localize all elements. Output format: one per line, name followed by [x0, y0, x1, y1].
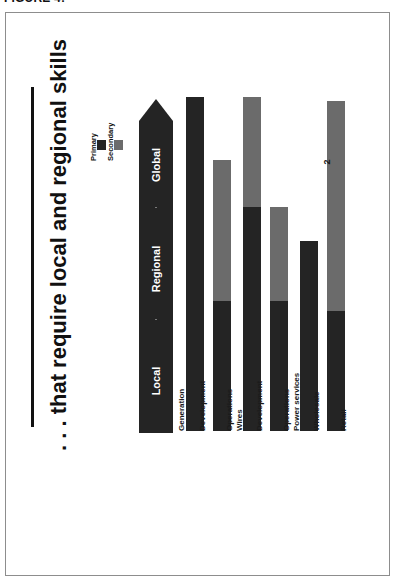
figure-caption: FIGURE 4: — [4, 0, 65, 5]
bar-segment-secondary — [243, 97, 261, 207]
bar-segment-secondary — [327, 101, 345, 311]
bar-segment-secondary — [213, 160, 231, 301]
category-label-wires-development: Development — [254, 311, 266, 431]
group-label-power-services: Power services — [291, 311, 303, 431]
bar-series-group: 2 — [6, 13, 391, 577]
bar-segment-secondary — [270, 207, 288, 301]
annotation-mark: 2 — [322, 159, 332, 164]
category-label-generation-development: Development — [197, 311, 209, 431]
category-label-power-services-retail: Retail — [338, 311, 350, 431]
group-label-wires: Wires — [234, 311, 246, 431]
category-label-power-services-wholesale: Wholesale — [311, 311, 323, 431]
slide-frame: . . . that require local and regional sk… — [5, 12, 390, 576]
group-label-generation: Generation — [176, 311, 188, 431]
chart-plot-area: . . . that require local and regional sk… — [6, 13, 389, 575]
